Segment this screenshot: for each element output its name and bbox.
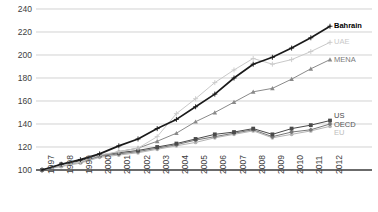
x-axis-tick: 2005: [199, 155, 209, 174]
x-axis-tick: 1997: [46, 155, 56, 174]
x-axis-tick: 2009: [276, 155, 286, 174]
x-axis-tick: 2006: [218, 155, 228, 174]
x-axis-tick: 2012: [334, 155, 344, 174]
x-axis-tick: 2011: [314, 156, 324, 174]
x-axis-tick: 2010: [295, 155, 305, 174]
series-label-eu: EU: [334, 129, 344, 137]
x-axis-tick: 2000: [103, 155, 113, 174]
x-axis-tick: 1999: [84, 155, 94, 174]
x-axis-tick: 2007: [238, 155, 248, 174]
x-axis-tick: 2004: [180, 155, 190, 174]
x-axis-tick: 2003: [161, 155, 171, 174]
chart-plot-area: [0, 0, 378, 212]
series-label-mena: MENA: [334, 56, 356, 64]
y-axis-tick: 240: [6, 4, 32, 14]
y-axis-tick: 120: [6, 142, 32, 152]
y-axis-tick: 220: [6, 27, 32, 37]
y-axis-tick: 160: [6, 96, 32, 106]
y-axis-tick: 100: [6, 165, 32, 175]
line-chart: 240220200180160140120100 199719981999200…: [0, 0, 378, 212]
gridlines: [36, 9, 372, 170]
series-bahrain: [40, 24, 333, 173]
series-uae: [40, 40, 333, 173]
x-axis-tick: 2001: [122, 155, 132, 174]
y-axis-tick: 180: [6, 73, 32, 83]
y-axis-tick: 140: [6, 119, 32, 129]
x-axis-tick: 2008: [257, 155, 267, 174]
series-label-bahrain: Bahrain: [334, 22, 362, 30]
series-label-uae: UAE: [334, 38, 349, 46]
series-label-us: US: [334, 112, 344, 120]
x-axis-tick: 1998: [65, 155, 75, 174]
y-axis-tick: 200: [6, 50, 32, 60]
x-axis-tick: 2002: [142, 155, 152, 174]
